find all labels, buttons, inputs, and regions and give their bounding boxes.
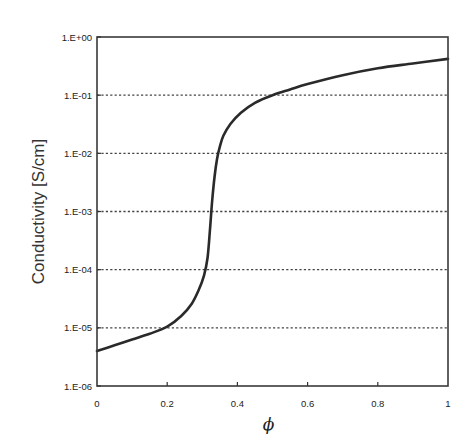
conductivity-chart: 00.20.40.60.81 1.E+001.E-011.E-021.E-031…	[0, 0, 470, 443]
y-axis: 1.E+001.E-011.E-021.E-031.E-041.E-051.E-…	[62, 32, 101, 392]
series-line-conductivity	[97, 59, 448, 351]
x-tick-label: 1	[445, 398, 450, 409]
y-axis-title: Conductivity [S/cm]	[29, 139, 48, 285]
y-tick-label: 1.E-05	[64, 322, 92, 333]
x-tick-label: 0.6	[301, 398, 314, 409]
y-tick-label: 1.E-01	[64, 90, 92, 101]
y-tick-label: 1.E-06	[64, 381, 92, 392]
y-tick-label: 1.E-03	[64, 206, 92, 217]
gridlines	[97, 95, 448, 328]
y-tick-label: 1.E-04	[64, 264, 92, 275]
y-tick-label: 1.E-02	[64, 148, 92, 159]
x-tick-label: 0.4	[231, 398, 244, 409]
x-tick-label: 0.8	[371, 398, 384, 409]
x-axis-title: ϕ	[263, 414, 275, 434]
x-tick-label: 0	[94, 398, 99, 409]
x-tick-label: 0.2	[161, 398, 174, 409]
y-tick-label: 1.E+00	[62, 32, 92, 43]
